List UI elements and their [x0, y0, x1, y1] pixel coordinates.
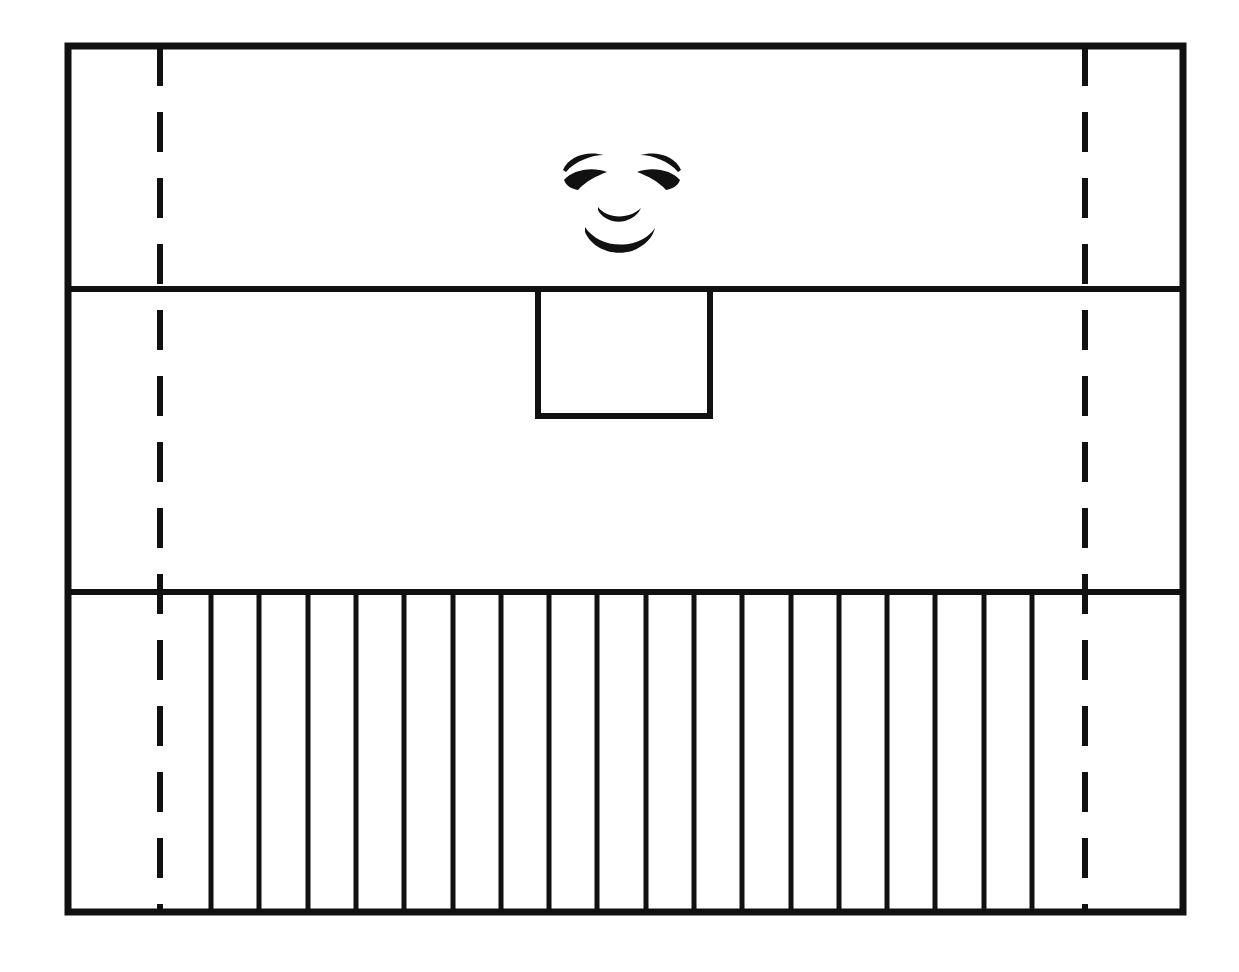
line-drawing-svg — [0, 0, 1239, 972]
drawing-canvas: Line drawing of a paneled facade with a … — [0, 0, 1239, 972]
paper-background — [0, 0, 1239, 972]
